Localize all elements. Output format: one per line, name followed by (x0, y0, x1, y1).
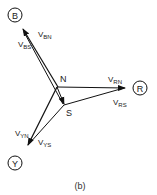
point-n-label: N (60, 74, 67, 84)
phasor-vrn (57, 87, 125, 88)
terminal-y-label: Y (12, 159, 18, 169)
label-vrn: VRN (108, 75, 122, 85)
terminal-y: Y (8, 156, 22, 170)
label-vyn: VYN (15, 129, 29, 139)
terminal-b: B (8, 8, 22, 22)
terminal-r-label: R (137, 84, 144, 94)
figure-caption: (b) (75, 181, 86, 191)
terminal-r: R (133, 81, 147, 95)
point-s-label: S (66, 108, 72, 118)
label-vys: VYS (38, 138, 51, 148)
label-vrs: VRS (113, 98, 127, 108)
label-vbn: VBN (38, 30, 52, 40)
phasor-vys (28, 105, 64, 145)
terminal-b-label: B (12, 11, 18, 21)
phasor-vbs (24, 32, 63, 104)
phasor-diagram: B R Y N S VBN VBS VRN VRS VYN VYS (b) (0, 0, 157, 195)
phasor-vyn (28, 87, 57, 145)
